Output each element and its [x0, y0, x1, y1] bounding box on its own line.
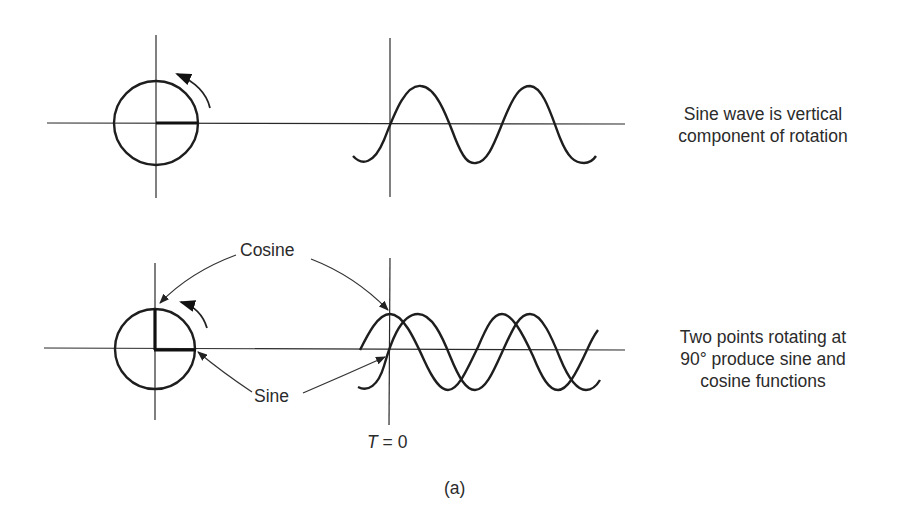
bottom-description-line-2: 90° produce sine and [628, 348, 898, 370]
top-description: Sine wave is vertical component of rotat… [638, 103, 888, 147]
cosine-leader-to-circle [160, 255, 236, 303]
time-value: = 0 [378, 432, 408, 452]
sine-leader-to-circle [198, 352, 252, 392]
bottom-sine-wave [358, 314, 600, 390]
top-panel [47, 35, 625, 198]
time-variable: T [367, 432, 378, 452]
bottom-description-line-1: Two points rotating at [628, 326, 898, 348]
cosine-leader-to-wave [311, 259, 388, 310]
bottom-horizontal-axis [44, 348, 625, 350]
top-description-line-1: Sine wave is vertical [638, 103, 888, 125]
bottom-wave-vertical-axis [389, 258, 390, 425]
sine-cosine-diagram [0, 0, 906, 520]
figure-caption: (a) [444, 478, 465, 499]
bottom-description: Two points rotating at 90° produce sine … [628, 326, 898, 392]
sine-label: Sine [254, 386, 289, 407]
sine-leader-to-wave [303, 357, 385, 393]
bottom-panel [44, 255, 625, 425]
bottom-cosine-wave [360, 314, 587, 390]
top-description-line-2: component of rotation [638, 125, 888, 147]
cosine-label: Cosine [240, 240, 294, 261]
time-zero-label: T = 0 [367, 432, 407, 453]
bottom-description-line-3: cosine functions [628, 370, 898, 392]
bottom-cosine-wave-tail [587, 330, 598, 350]
top-horizontal-axis [47, 123, 625, 124]
